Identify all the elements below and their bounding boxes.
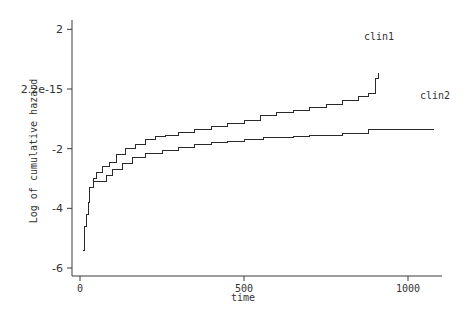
clin1-label: clin1 [364,31,394,42]
y-tick-label: -2 [52,143,63,156]
x-axis-label: time [231,292,255,303]
y-tick-label: -6 [52,262,63,275]
clin2-label: clin2 [420,90,450,101]
x-tick-label: 1000 [396,283,420,294]
x-tick-label: 0 [77,283,83,294]
series-group [83,73,434,251]
y-tick-label: 2 [56,23,63,36]
y-tick-label: -4 [52,202,63,215]
hazard-chart: 22.2e-15-2-4-6 05001000 clin1 clin2 time… [0,0,468,318]
y-axis-label: Log of cumulative hazard [28,79,39,224]
clin1-curve [83,73,378,251]
axes [72,20,442,276]
